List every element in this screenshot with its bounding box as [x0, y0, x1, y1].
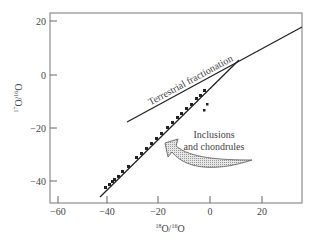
terrestrial-fractionation-label: Terrestrial fractionation [146, 53, 234, 108]
x-tick-neg40: −40 [99, 206, 115, 217]
oxygen-isotope-chart: 20 0 −20 −40 −60 −40 −20 0 20 18O/16O 17… [0, 0, 316, 240]
plot-frame [50, 13, 302, 203]
x-tick-neg20: −20 [150, 206, 166, 217]
x-tick-20: 20 [257, 206, 267, 217]
terrestrial-fractionation-line [127, 27, 302, 122]
inclusions-label-line1: Inclusions [193, 129, 234, 140]
inclusions-label-line2: and chondrules [184, 141, 245, 152]
x-axis-label: 18O/16O [155, 223, 184, 234]
x-tick-neg60: −60 [50, 206, 66, 217]
y-tick-0: 0 [41, 70, 46, 81]
x-tick-0: 0 [208, 206, 213, 217]
y-tick-20: 20 [36, 16, 46, 27]
y-tick-neg20: −20 [30, 123, 46, 134]
y-axis-label: 17O/16O [13, 83, 24, 112]
y-axis [50, 21, 57, 181]
y-tick-neg40: −40 [30, 176, 46, 187]
x-axis [58, 196, 262, 203]
